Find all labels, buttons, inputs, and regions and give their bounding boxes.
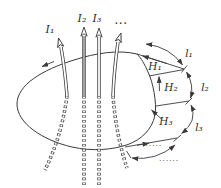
- label-field-2: H₂: [163, 81, 177, 93]
- amperian-loop: [17, 52, 156, 150]
- label-current-2: I₂: [77, 12, 87, 25]
- wire-1-arrowhead-icon: [55, 37, 63, 47]
- label-more-currents: ···: [115, 17, 128, 31]
- tick-junction-4: [127, 151, 132, 158]
- length-arc-2: [187, 72, 192, 98]
- field-vector-2: [159, 77, 160, 92]
- figure-canvas: I₁ I₂ I₃ ··· H₁ H₂ H₃ l₁ l₂ l₃ ······ ··…: [0, 0, 221, 188]
- wire-3-arrowhead-icon: [96, 28, 102, 37]
- label-segment-3: l₃: [195, 121, 203, 133]
- segment-divider-2: [156, 101, 189, 106]
- wire-1-dashed: [45, 96, 67, 170]
- label-field-3: H₃: [158, 115, 172, 127]
- label-more-segments-arc: ······: [159, 156, 179, 165]
- label-current-3: I₃: [92, 12, 102, 25]
- loop-direction-arrow-top: [42, 62, 54, 67]
- wire-2-arrowhead-icon: [81, 27, 87, 36]
- tick-junction-1: [182, 66, 188, 73]
- label-current-1: I₁: [45, 23, 55, 36]
- ampere-law-diagram: I₁ I₂ I₃ ··· H₁ H₂ H₃ l₁ l₂ l₃ ······ ··…: [0, 0, 221, 188]
- label-segment-2: l₂: [201, 81, 209, 93]
- wire-4-arrowhead-icon: [115, 32, 124, 43]
- length-arc-3: [182, 105, 194, 134]
- label-segment-1: l₁: [185, 47, 193, 59]
- label-field-1: H₁: [147, 60, 161, 72]
- label-more-segments-chord: ······: [142, 141, 162, 150]
- wire-4-dashed: [113, 96, 127, 168]
